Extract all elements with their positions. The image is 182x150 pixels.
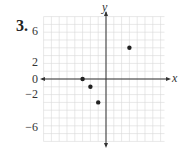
coordinate-plane — [0, 0, 182, 150]
data-point — [96, 100, 100, 104]
axes — [40, 11, 171, 148]
data-point — [80, 77, 84, 81]
data-point — [127, 46, 131, 50]
data-point — [88, 85, 92, 89]
